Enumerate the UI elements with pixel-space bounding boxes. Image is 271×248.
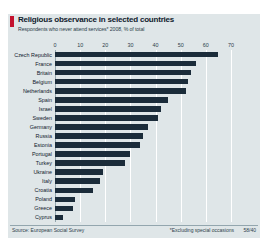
gridline-70 xyxy=(231,50,232,222)
bar xyxy=(55,160,125,166)
x-tick-label-10: 10 xyxy=(77,42,83,48)
bar-row: Poland xyxy=(55,197,231,203)
source-note: Source: European Social Survey xyxy=(12,227,84,233)
bar-category-label: France xyxy=(35,61,52,67)
plot-area: Czech RepublicFranceBritainBelgiumNether… xyxy=(55,50,231,222)
bar-row: Britain xyxy=(55,70,231,76)
footer-divider xyxy=(10,225,258,226)
bar xyxy=(55,88,186,94)
bar-row: Netherlands xyxy=(55,88,231,94)
figure-id: 58/40 xyxy=(243,227,256,233)
bar-category-label: Turkey xyxy=(36,160,52,166)
chart-figure: Religious observance in selected countri… xyxy=(8,14,260,238)
x-tick-label-60: 60 xyxy=(203,42,209,48)
bar-category-label: Israel xyxy=(39,106,52,112)
bar-row: Turkey xyxy=(55,160,231,166)
bar xyxy=(55,52,218,58)
bar-category-label: Greece xyxy=(34,205,52,211)
bar xyxy=(55,188,93,194)
bar xyxy=(55,97,168,103)
bar-row: Portugal xyxy=(55,151,231,157)
x-tick-label-70: 70 xyxy=(228,42,234,48)
bar-category-label: Portugal xyxy=(32,151,52,157)
bar-row: Croatia xyxy=(55,188,231,194)
bar-category-label: Belgium xyxy=(33,79,52,85)
x-tick-label-0: 0 xyxy=(54,42,57,48)
bar xyxy=(55,206,73,212)
x-tick-label-40: 40 xyxy=(153,42,159,48)
bar-row: Spain xyxy=(55,97,231,103)
bar xyxy=(55,142,140,148)
bar-row: Greece xyxy=(55,206,231,212)
chart-subtitle: Respondents who never attend services* 2… xyxy=(18,26,144,32)
bar xyxy=(55,215,63,221)
bar-category-label: Netherlands xyxy=(23,88,52,94)
x-tick-label-30: 30 xyxy=(127,42,133,48)
bar xyxy=(55,197,75,203)
bar-category-label: Ukraine xyxy=(33,169,52,175)
chart-footer: Source: European Social Survey *Excludin… xyxy=(8,225,260,235)
bar-row: Cyprus xyxy=(55,215,231,221)
bar-category-label: Russia xyxy=(36,133,52,139)
footnote-text: *Excluding special occasions xyxy=(170,227,234,233)
bar xyxy=(55,124,148,130)
x-tick-label-50: 50 xyxy=(178,42,184,48)
bar-row: Russia xyxy=(55,133,231,139)
bar-row: Israel xyxy=(55,106,231,112)
bar-category-label: Sweden xyxy=(33,115,52,121)
bar-category-label: Spain xyxy=(38,97,52,103)
bar-category-label: Poland xyxy=(35,196,52,202)
bar-category-label: Czech Republic xyxy=(14,52,52,58)
bar xyxy=(55,133,143,139)
bar-category-label: Britain xyxy=(37,70,52,76)
bar xyxy=(55,61,196,67)
bar-category-label: Italy xyxy=(42,178,52,184)
bar-row: Belgium xyxy=(55,79,231,85)
bar xyxy=(55,151,130,157)
x-axis-tick-labels: 010203040506070 xyxy=(55,42,231,50)
bar-row: Germany xyxy=(55,124,231,130)
bar xyxy=(55,79,188,85)
bar-row: Czech Republic xyxy=(55,52,231,58)
bar-row: Italy xyxy=(55,178,231,184)
bar-category-label: Croatia xyxy=(35,187,52,193)
chart-title: Religious observance in selected countri… xyxy=(18,15,174,24)
bar xyxy=(55,169,103,175)
bar-category-label: Germany xyxy=(30,124,52,130)
bar xyxy=(55,106,161,112)
bar xyxy=(55,115,158,121)
title-accent-bar xyxy=(10,16,14,27)
bar xyxy=(55,70,191,76)
bar-category-label: Estonia xyxy=(34,142,52,148)
bar-row: Ukraine xyxy=(55,169,231,175)
bar-row: France xyxy=(55,61,231,67)
x-tick-label-20: 20 xyxy=(102,42,108,48)
bar-category-label: Cyprus xyxy=(35,214,52,220)
chart-header: Religious observance in selected countri… xyxy=(8,14,260,44)
bar-row: Estonia xyxy=(55,142,231,148)
bar xyxy=(55,178,100,184)
bar-row: Sweden xyxy=(55,115,231,121)
